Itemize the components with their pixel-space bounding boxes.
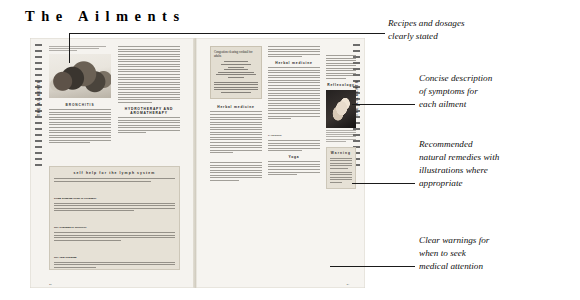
self-help-item-0-label: Using drinking tissue or bergamot: [54, 196, 96, 200]
subhead-yoga: Yoga: [268, 155, 320, 159]
leader-symptoms: [352, 104, 415, 105]
body-text-right-a2: [210, 162, 262, 181]
right-col-a: Congestion clearing cocktail for adults …: [210, 46, 262, 183]
left-page: THE AILMENTS BRONCHITIS HYDROTHERAPY AND…: [30, 38, 196, 288]
photo-caption-left: [49, 46, 111, 51]
recipe-heading: Congestion clearing cocktail for adults: [214, 50, 258, 58]
annotation-remedies-line-3: appropriate: [419, 177, 499, 190]
warning-heading: Warning: [330, 151, 352, 155]
section-kicker-left: BRONCHITIS: [49, 103, 111, 107]
reflexology-hands-photo: [326, 90, 356, 128]
self-help-item-2-label: Dry skin brushing: [54, 255, 77, 259]
subhead-herbal-medicine-c: [326, 50, 356, 53]
annotation-warnings-line-2: medical attention: [419, 260, 489, 273]
left-col-b: HYDROTHERAPY AND AROMATHERAPY: [118, 46, 180, 135]
annotation-remedies-line-0: Recommended: [419, 138, 499, 151]
leader-recipes-corner: [69, 33, 385, 34]
subhead-hydrotherapy: HYDROTHERAPY AND AROMATHERAPY: [118, 107, 180, 115]
self-help-item-2: Dry skin brushing: [54, 244, 175, 268]
side-tab-left: THE AILMENTS: [34, 44, 43, 169]
annotation-remedies: Recommended natural remedies with illust…: [419, 138, 499, 190]
annotation-recipes-line-0: Recipes and dosages: [388, 17, 465, 30]
self-help-item-1-label: Dry brushing or abrasives: [54, 225, 86, 229]
caution-body: [268, 140, 320, 151]
body-text-left-b: [118, 46, 180, 103]
annotation-remedies-line-1: natural remedies with: [419, 151, 499, 164]
body-text-yoga: [268, 161, 320, 175]
body-text-left-b2: [118, 117, 180, 133]
leader-recipes-vertical: [69, 33, 70, 63]
subhead-herbal-medicine-b: Herbal medicine: [268, 61, 320, 65]
self-help-item-1: Dry brushing or abrasives: [54, 214, 175, 241]
self-help-item-2-body: [54, 262, 175, 268]
body-text-right-b: [268, 46, 320, 57]
annotation-symptoms-line-0: Concise description: [419, 72, 492, 85]
recipe-ingredients: [214, 61, 258, 77]
folio-left: 42: [49, 283, 52, 286]
photo-caption-right: [326, 130, 356, 142]
self-help-heading: self help for the lymph system: [54, 171, 175, 175]
body-text-left-a: [49, 109, 111, 143]
subhead-herbal-medicine-a: Herbal medicine: [210, 105, 262, 109]
self-help-item-1-body: [54, 232, 175, 241]
right-page: THE AILMENTS Congestion clearing cocktai…: [196, 38, 365, 288]
warning-body: [330, 158, 352, 183]
vegetables-photo: [49, 54, 111, 98]
self-help-item-0: Using drinking tissue or bergamot: [54, 185, 175, 212]
annotation-warnings-line-1: when to seek: [419, 247, 489, 260]
annotation-recipes-line-1: clearly stated: [388, 30, 465, 43]
self-help-panel: self help for the lymph system Using dri…: [49, 166, 180, 270]
caution-runin: CAUTION: [268, 133, 282, 137]
self-help-intro: [54, 178, 175, 182]
self-help-item-0-body: [54, 203, 175, 212]
folio-right: 43: [346, 283, 349, 286]
annotation-symptoms: Concise description of symptoms for each…: [419, 72, 492, 111]
side-tab-label-left: THE AILMENTS: [37, 67, 41, 129]
recipe-directions: [214, 82, 258, 93]
right-col-b: Herbal medicine CAUTION Yoga: [268, 46, 320, 177]
page-title: The Ailments: [25, 8, 186, 25]
subhead-reflexology: Reflexology: [326, 83, 356, 87]
left-col-a: BRONCHITIS: [49, 46, 111, 145]
annotation-symptoms-line-1: of symptoms for: [419, 85, 492, 98]
annotation-recipes: Recipes and dosages clearly stated: [388, 17, 465, 43]
annotation-warnings: Clear warnings for when to seek medical …: [419, 234, 489, 273]
annotation-symptoms-line-2: each ailment: [419, 98, 492, 111]
caution-note: CAUTION: [268, 122, 320, 151]
annotation-warnings-line-0: Clear warnings for: [419, 234, 489, 247]
recipe-box: Congestion clearing cocktail for adults: [210, 46, 262, 99]
annotation-remedies-line-2: illustrations where: [419, 164, 499, 177]
subhead-homeopathy: [210, 157, 262, 160]
leader-remedies: [352, 183, 415, 184]
leader-warnings: [330, 266, 415, 267]
book-spread: THE AILMENTS BRONCHITIS HYDROTHERAPY AND…: [30, 38, 365, 288]
right-col-c: Reflexology Warning: [326, 46, 356, 189]
body-text-right-a: [210, 111, 262, 153]
body-text-right-c: [326, 55, 356, 79]
body-text-right-b2: [268, 67, 320, 119]
